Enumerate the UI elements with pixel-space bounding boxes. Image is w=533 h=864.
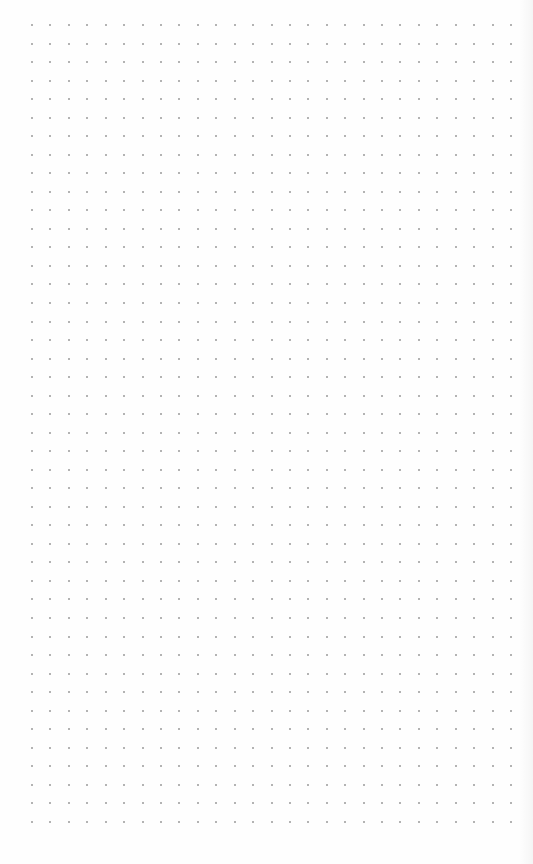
grid-dot [399, 135, 401, 137]
grid-dot [197, 24, 199, 26]
grid-dot [510, 728, 512, 730]
grid-dot [160, 339, 162, 341]
grid-dot [105, 61, 107, 63]
grid-dot [381, 802, 383, 804]
grid-dot [399, 117, 401, 119]
grid-dot [344, 691, 346, 693]
grid-dot [418, 154, 420, 156]
grid-dot [492, 209, 494, 211]
grid-dot [418, 802, 420, 804]
grid-dot [307, 432, 309, 434]
grid-dot [363, 821, 365, 823]
grid-dot [31, 617, 33, 619]
grid-dot [86, 413, 88, 415]
grid-dot [31, 376, 33, 378]
grid-dot [418, 543, 420, 545]
grid-dot [215, 450, 217, 452]
grid-dot [271, 469, 273, 471]
grid-dot [142, 413, 144, 415]
grid-dot [344, 487, 346, 489]
grid-dot [399, 302, 401, 304]
grid-dot [31, 728, 33, 730]
grid-dot [344, 450, 346, 452]
grid-dot [160, 543, 162, 545]
grid-dot [215, 228, 217, 230]
grid-dot [326, 80, 328, 82]
grid-dot [510, 691, 512, 693]
grid-dot [197, 802, 199, 804]
grid-dot [510, 135, 512, 137]
grid-dot [160, 117, 162, 119]
grid-dot [326, 543, 328, 545]
grid-dot [363, 339, 365, 341]
grid-dot [178, 117, 180, 119]
grid-dot [271, 710, 273, 712]
grid-dot [473, 487, 475, 489]
grid-dot [492, 673, 494, 675]
grid-dot [86, 80, 88, 82]
grid-dot [197, 432, 199, 434]
grid-dot [197, 617, 199, 619]
grid-dot [142, 580, 144, 582]
grid-dot [363, 598, 365, 600]
grid-dot [86, 728, 88, 730]
grid-dot [252, 802, 254, 804]
grid-dot [492, 802, 494, 804]
grid-dot [123, 413, 125, 415]
grid-dot [289, 24, 291, 26]
grid-dot [289, 339, 291, 341]
grid-dot [197, 524, 199, 526]
grid-dot [363, 43, 365, 45]
grid-dot [326, 117, 328, 119]
grid-dot [86, 98, 88, 100]
grid-dot [436, 265, 438, 267]
grid-dot [307, 728, 309, 730]
grid-dot [252, 469, 254, 471]
grid-dot [381, 376, 383, 378]
grid-dot [271, 524, 273, 526]
grid-dot [252, 80, 254, 82]
grid-dot [142, 821, 144, 823]
grid-dot [160, 506, 162, 508]
grid-dot [436, 450, 438, 452]
grid-dot [160, 265, 162, 267]
grid-dot [473, 432, 475, 434]
grid-dot [31, 432, 33, 434]
grid-dot [307, 246, 309, 248]
grid-dot [418, 784, 420, 786]
grid-dot [234, 61, 236, 63]
grid-dot [105, 80, 107, 82]
grid-dot [289, 543, 291, 545]
grid-dot [49, 265, 51, 267]
grid-dot [381, 654, 383, 656]
grid-dot [142, 543, 144, 545]
grid-dot [418, 321, 420, 323]
grid-dot [307, 710, 309, 712]
grid-dot [197, 710, 199, 712]
grid-dot [178, 598, 180, 600]
grid-dot [215, 617, 217, 619]
grid-dot [86, 246, 88, 248]
grid-dot [160, 784, 162, 786]
grid-dot [326, 358, 328, 360]
grid-dot [215, 506, 217, 508]
grid-dot [123, 802, 125, 804]
grid-dot [142, 636, 144, 638]
grid-dot [31, 117, 33, 119]
grid-dot [363, 283, 365, 285]
grid-dot [510, 450, 512, 452]
grid-dot [473, 524, 475, 526]
grid-dot [215, 413, 217, 415]
grid-dot [399, 543, 401, 545]
grid-dot [123, 358, 125, 360]
grid-dot [86, 821, 88, 823]
grid-dot [178, 413, 180, 415]
grid-dot [289, 135, 291, 137]
grid-dot [344, 172, 346, 174]
grid-dot [363, 432, 365, 434]
grid-dot [455, 24, 457, 26]
grid-dot [344, 191, 346, 193]
grid-dot [271, 673, 273, 675]
grid-dot [473, 339, 475, 341]
grid-dot [271, 617, 273, 619]
